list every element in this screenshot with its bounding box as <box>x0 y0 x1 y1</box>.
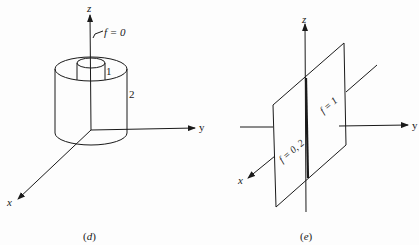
outer-radius-label: 2 <box>129 89 135 100</box>
figure-d <box>18 15 195 199</box>
xz-plane <box>273 43 346 207</box>
caption-d: (d) <box>83 231 96 242</box>
f0-pointer <box>93 31 103 38</box>
caption-e: (e) <box>300 231 312 242</box>
x-axis-rear <box>346 65 377 92</box>
z-axis-label-d: z <box>87 3 91 14</box>
y-axis-label-d: y <box>199 122 205 133</box>
figure-e <box>240 24 408 212</box>
x-axis <box>18 130 91 199</box>
x-axis-label-d: x <box>7 197 12 208</box>
z-axis <box>90 15 91 130</box>
z-axis-label-e: z <box>302 14 306 25</box>
y-axis <box>339 125 408 126</box>
y-axis <box>91 128 195 130</box>
x-axis <box>248 156 275 178</box>
caption-e-letter: e <box>304 230 309 242</box>
caption-d-letter: d <box>87 230 93 242</box>
z-axis-on-plane <box>306 78 308 178</box>
f0-label: f = 0 <box>104 27 125 38</box>
inner-radius-label: 1 <box>106 66 112 77</box>
y-axis-label-e: y <box>412 120 418 131</box>
diagram-canvas <box>0 0 419 245</box>
x-axis-label-e: x <box>238 175 243 186</box>
